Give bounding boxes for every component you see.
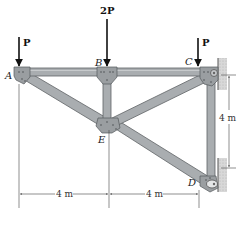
pin-support-C [211, 70, 218, 77]
member-CD [207, 72, 215, 186]
gusset-E [96, 118, 120, 133]
joint-label-D: D [187, 177, 196, 188]
joint-label-B: B [94, 57, 102, 68]
dimension-label-right: 4 m [146, 189, 164, 199]
load-label-C: P [202, 37, 210, 48]
dimension-label-left: 4 m [56, 189, 74, 199]
load-label-B: 2P [100, 5, 115, 16]
wall-support-bottom [218, 158, 227, 192]
truss-figure: P 2P P A B C E D 4 m 4 m 4 m [0, 0, 243, 229]
joint-label-C: C [185, 56, 193, 67]
dimension-label-vertical: 4 m [219, 113, 237, 123]
member-EC [108, 72, 210, 128]
wall-support-top [218, 58, 227, 90]
member-AE [18, 70, 110, 128]
gusset-B [97, 67, 117, 84]
roller-support-D [207, 180, 218, 188]
member-ED [108, 118, 214, 188]
load-arrow-A: P [19, 37, 31, 66]
joint-label-A: A [4, 70, 12, 81]
load-arrow-C: P [198, 37, 210, 66]
load-label-A: P [23, 37, 31, 48]
joint-label-E: E [97, 134, 106, 145]
